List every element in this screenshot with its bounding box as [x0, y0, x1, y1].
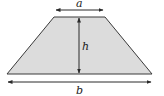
- top-base-label: a: [76, 0, 83, 10]
- trapezoid-diagram: a h b: [0, 0, 164, 96]
- height-label: h: [82, 40, 89, 53]
- bottom-base-label: b: [76, 84, 83, 96]
